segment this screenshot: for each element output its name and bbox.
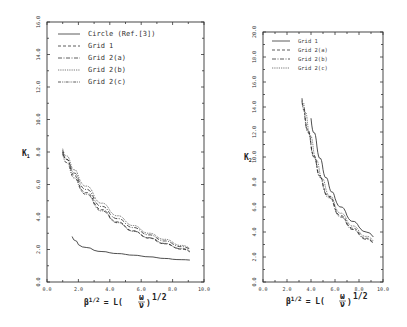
y-tick-label: 10.0 [35, 113, 41, 125]
y-tick-label: 16.0 [35, 16, 41, 28]
y-tick-label: 0.0 [35, 277, 41, 286]
legend-label: Grid 2(b) [298, 56, 328, 62]
curve-grid-1 [311, 118, 373, 237]
svg-text:1/2: 1/2 [152, 293, 167, 302]
left-x-tick-labels: 0.02.04.06.08.010.0 [42, 286, 210, 292]
svg-text:β1/2= L(: β1/2= L( [286, 295, 325, 306]
right-legend: Grid 1Grid 2(a)Grid 2(b)Grid 2(c) [272, 38, 328, 71]
left-y-axis-title: K1 [22, 149, 30, 159]
x-tick-label: 4.0 [306, 286, 315, 292]
legend-label: Grid 2(b) [88, 66, 126, 74]
legend-label: Grid 2(a) [298, 47, 328, 53]
left-y-tick-labels: 0.02.04.06.08.010.012.014.016.0 [35, 16, 41, 287]
svg-text:): ) [146, 299, 151, 308]
x-tick-label: 0.0 [258, 286, 267, 292]
curve-grid-2-c [304, 103, 374, 241]
y-tick-label: 2.0 [35, 245, 41, 254]
y-tick-label: 0.0 [251, 277, 257, 286]
svg-text:ν: ν [139, 301, 144, 310]
x-tick-label: 6.0 [330, 286, 339, 292]
y-tick-label: 4.0 [35, 212, 41, 221]
x-tick-label: 2.0 [74, 286, 83, 292]
legend-label: Grid 1 [88, 42, 113, 50]
right-x-tick-labels: 0.02.04.06.08.010.0 [258, 286, 389, 292]
legend-label: Grid 1 [298, 38, 318, 44]
left-curves [63, 149, 190, 260]
curve-grid-2-a [302, 98, 373, 243]
y-tick-label: 18.0 [251, 51, 257, 63]
left-legend: Circle (Ref.[3])Grid 1Grid 2(a)Grid 2(b)… [58, 30, 155, 86]
legend-label: Grid 2(a) [88, 54, 126, 62]
y-tick-label: 10.0 [251, 151, 257, 163]
legend-label: Grid 2(c) [88, 78, 126, 86]
y-tick-label: 6.0 [35, 180, 41, 189]
y-tick-label: 8.0 [251, 177, 257, 186]
y-tick-label: 20.0 [251, 26, 257, 38]
curve-grid-2-b [302, 101, 373, 244]
x-tick-label: 8.0 [168, 286, 177, 292]
legend-label: Circle (Ref.[3]) [88, 30, 155, 38]
x-tick-label: 6.0 [137, 286, 146, 292]
y-tick-label: 4.0 [251, 227, 257, 236]
curve-grid-1 [63, 150, 190, 252]
figure: 0.02.04.06.08.010.012.014.016.0 0.02.04.… [0, 0, 407, 327]
curve-grid-2-c [63, 154, 190, 252]
curve-grid-2-b [63, 149, 190, 249]
svg-text:1/2: 1/2 [353, 292, 368, 301]
y-tick-label: 8.0 [35, 147, 41, 156]
right-plot-k2: 0.02.04.06.08.010.012.014.016.018.020.0 … [244, 26, 389, 309]
curve-grid-2-a [63, 152, 190, 250]
y-tick-label: 12.0 [35, 81, 41, 93]
right-x-axis-title: β1/2= L( ω ν ) 1/2 [286, 292, 368, 309]
left-plot-k1: 0.02.04.06.08.010.012.014.016.0 0.02.04.… [22, 16, 210, 310]
y-tick-label: 14.0 [35, 48, 41, 60]
x-tick-label: 10.0 [198, 286, 210, 292]
x-tick-label: 4.0 [105, 286, 114, 292]
x-tick-label: 10.0 [377, 286, 389, 292]
y-tick-label: 2.0 [251, 252, 257, 261]
y-tick-label: 6.0 [251, 202, 257, 211]
right-curves [302, 98, 373, 244]
svg-text:β1/2= L(: β1/2= L( [84, 296, 123, 307]
curve-circle-ref-3 [72, 237, 190, 261]
y-tick-label: 14.0 [251, 101, 257, 113]
svg-text:ν: ν [340, 300, 345, 309]
y-tick-label: 16.0 [251, 76, 257, 88]
svg-text:): ) [347, 298, 352, 307]
left-x-axis-title: β1/2= L( ω ν ) 1/2 [84, 293, 167, 310]
legend-label: Grid 2(c) [298, 65, 328, 71]
y-tick-label: 12.0 [251, 126, 257, 138]
right-y-tick-labels: 0.02.04.06.08.010.012.014.016.018.020.0 [251, 26, 257, 287]
x-tick-label: 0.0 [42, 286, 51, 292]
x-tick-label: 2.0 [282, 286, 291, 292]
